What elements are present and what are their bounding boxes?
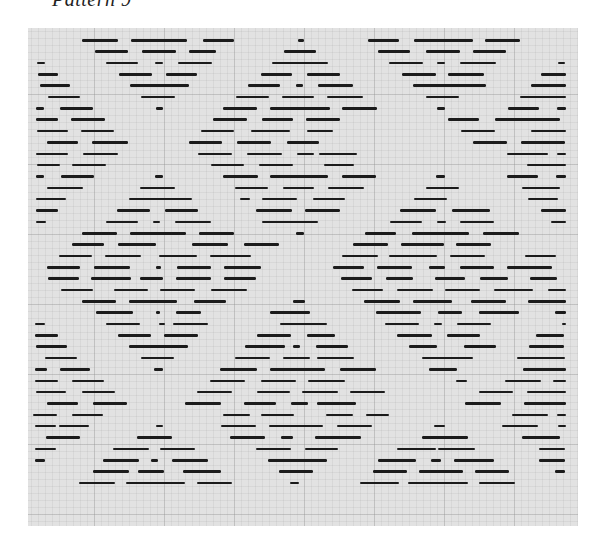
pattern-dash <box>438 448 475 451</box>
pattern-dash <box>390 221 422 224</box>
pattern-dash <box>293 300 305 303</box>
pattern-dash <box>270 175 328 178</box>
pattern-dash <box>525 255 556 258</box>
pattern-dash <box>247 153 282 156</box>
pattern-dash <box>360 482 399 485</box>
pattern-dash <box>36 175 44 178</box>
pattern-dash <box>72 380 104 383</box>
pattern-dash <box>141 96 175 99</box>
pattern-dash <box>315 436 361 439</box>
pattern-dash <box>337 425 372 428</box>
pattern-dash <box>270 368 325 371</box>
pattern-dash <box>198 153 232 156</box>
pattern-dash <box>36 198 66 201</box>
pattern-dash <box>353 243 388 246</box>
pattern-dash <box>522 187 560 190</box>
pattern-dash <box>60 107 93 110</box>
pattern-dash <box>138 470 164 473</box>
pattern-dash <box>93 470 129 473</box>
pattern-dash <box>257 334 291 337</box>
pattern-dash <box>556 175 566 178</box>
pattern-dash <box>552 368 566 371</box>
pattern-dash <box>189 141 222 144</box>
pattern-dash <box>397 448 436 451</box>
pattern-dash <box>224 266 261 269</box>
pattern-dash <box>290 482 299 485</box>
pattern-dash <box>426 187 459 190</box>
pattern-dash <box>350 391 385 394</box>
pattern-dash <box>551 221 566 224</box>
pattern-dash <box>92 141 128 144</box>
pattern-dash <box>317 402 356 405</box>
pattern-dash <box>448 73 484 76</box>
pattern-dash <box>79 482 115 485</box>
pattern-dash <box>342 255 378 258</box>
pattern-dash <box>82 300 116 303</box>
pattern-dash <box>530 277 557 280</box>
pattern-dash <box>326 414 353 417</box>
pattern-dash <box>201 130 234 133</box>
pattern-dash <box>142 50 176 53</box>
pattern-dash <box>270 311 310 314</box>
pattern-dash <box>211 164 244 167</box>
pattern-dash <box>35 425 56 428</box>
pattern-dash <box>94 266 130 269</box>
graph-paper-draft <box>28 28 578 526</box>
pattern-dash <box>35 380 58 383</box>
pattern-dash <box>386 277 413 280</box>
pattern-dash <box>244 402 276 405</box>
pattern-dash <box>485 39 520 42</box>
pattern-dash <box>558 425 566 428</box>
pattern-dash <box>318 84 353 87</box>
pattern-dash <box>35 323 45 326</box>
pattern-dash <box>317 357 354 360</box>
pattern-dash <box>36 221 46 224</box>
pattern-dash <box>164 334 198 337</box>
pattern-dash <box>373 470 407 473</box>
pattern-dash <box>82 39 118 42</box>
pattern-dash <box>48 96 80 99</box>
pattern-dash <box>91 277 131 280</box>
pattern-dash <box>172 459 208 462</box>
pattern-dash <box>531 84 566 87</box>
pattern-dash <box>400 209 436 212</box>
pattern-dash <box>522 436 560 439</box>
pattern-dash <box>429 368 457 371</box>
pattern-dash <box>36 391 66 394</box>
pattern-dash <box>230 436 265 439</box>
pattern-dash <box>35 459 45 462</box>
pattern-dash <box>529 345 564 348</box>
pattern-dash <box>114 289 148 292</box>
pattern-dash <box>211 289 247 292</box>
pattern-dash <box>402 73 436 76</box>
pattern-dash <box>197 482 232 485</box>
pattern-dash <box>528 300 566 303</box>
pattern-dash <box>505 380 541 383</box>
pattern-dash <box>223 107 257 110</box>
pattern-dash <box>553 380 566 383</box>
pattern-dash <box>96 311 133 314</box>
pattern-dash <box>422 436 468 439</box>
pattern-dash <box>256 448 291 451</box>
pattern-dash <box>429 266 445 269</box>
pattern-dash <box>473 141 507 144</box>
pattern-dash <box>131 39 187 42</box>
pattern-dash <box>456 380 467 383</box>
pattern-dash <box>340 368 376 371</box>
pattern-dash <box>368 39 399 42</box>
pattern-dash <box>159 323 165 326</box>
pattern-dash <box>106 62 138 65</box>
pattern-dash <box>307 334 335 337</box>
pattern-dash <box>307 130 333 133</box>
pattern-dash <box>72 414 103 417</box>
pattern-dash <box>558 62 565 65</box>
pattern-dash <box>270 107 330 110</box>
pattern-dash <box>412 232 469 235</box>
pattern-dash <box>483 232 519 235</box>
pattern-dash <box>422 357 473 360</box>
pattern-dash <box>437 221 446 224</box>
pattern-dash <box>159 255 197 258</box>
pattern-dash <box>37 62 45 65</box>
pattern-dash <box>176 311 201 314</box>
pattern-dash <box>129 198 192 201</box>
